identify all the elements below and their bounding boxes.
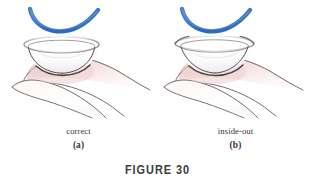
panel-a-tag-label: (a) [0, 140, 157, 150]
panel-a-name-label: correct [0, 126, 157, 136]
blue-arc-icon-a [30, 9, 98, 31]
figure-30-illustration: correct (a) [0, 0, 315, 195]
panel-b-artwork [157, 0, 314, 122]
panel-b-name-label: inside-out [157, 126, 314, 136]
figure-panel-a: correct (a) [0, 0, 157, 160]
figure-caption: FIGURE 30 [19, 163, 296, 177]
panel-a-artwork [0, 0, 157, 122]
figure-panel-b: inside-out (b) [157, 0, 314, 160]
panel-b-tag-label: (b) [157, 140, 314, 150]
figure-panels: correct (a) [0, 0, 315, 160]
blue-arc-icon-b [182, 9, 250, 31]
